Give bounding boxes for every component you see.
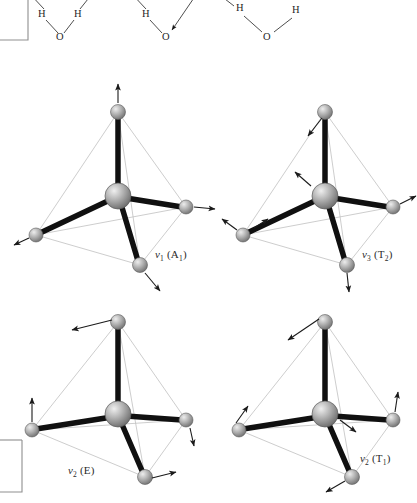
mode-symmetry-nu2e: (E — [80, 464, 91, 476]
mode-symmetry-nu3: (T — [374, 248, 385, 260]
water-left-h2-label: H — [74, 8, 82, 19]
tetrahedron-nu3-t2 — [222, 105, 416, 293]
water-right-h2-label: H — [292, 4, 300, 15]
crop-box-bottom-left — [0, 440, 22, 492]
mode-symmetry-nu2t1: (T — [372, 452, 383, 464]
mode-symmetry-close-nu1: ) — [183, 248, 187, 260]
water-molecule-right — [216, 0, 292, 32]
figure-artwork — [0, 0, 417, 503]
vibrational-modes-figure: H H O H O H H O ν1 (A1) ν3 (T2) ν2 (E) ν… — [0, 0, 417, 503]
mode-symmetry-close-nu2e: ) — [91, 464, 95, 476]
mode-symmetry-nu1: (A — [167, 248, 179, 260]
water-left-o-label: O — [56, 31, 64, 42]
water-right-h1-label: H — [236, 2, 244, 13]
mode-label-nu2-e: ν2 (E) — [68, 464, 95, 479]
mode-index-nu2t1: 2 — [365, 458, 369, 467]
mode-index-nu3: 3 — [367, 254, 371, 263]
mode-label-nu1-a1: ν1 (A1) — [155, 248, 187, 263]
tetrahedron-nu2-e — [25, 315, 194, 485]
water-middle-o-label: O — [162, 31, 170, 42]
mode-label-nu2-t1: ν2 (T1) — [360, 452, 391, 467]
water-left-h1-label: H — [38, 8, 46, 19]
mode-symmetry-close-nu3: ) — [389, 248, 393, 260]
water-right-o-label: O — [263, 31, 271, 42]
water-middle-h1-label: H — [142, 8, 150, 19]
crop-box-top-left — [0, 0, 28, 40]
mode-symmetry-close-nu2t1: ) — [387, 452, 391, 464]
mode-label-nu3-t2: ν3 (T2) — [362, 248, 393, 263]
mode-index-nu2e: 2 — [73, 470, 77, 479]
mode-index-nu1: 1 — [160, 254, 164, 263]
